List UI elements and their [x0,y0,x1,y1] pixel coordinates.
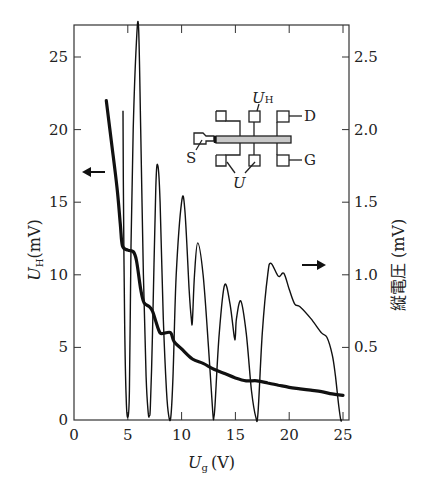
x-tick-label: 5 [123,426,133,444]
y-left-axis-ticks: 0510152025 [49,48,81,429]
svg-text:Ug(V): Ug(V) [188,453,235,473]
y-left-axis-title: UH(mV) [25,219,45,280]
longitudinal-voltage-line [123,21,342,421]
source-contact [194,133,214,144]
hall-bar-inset [194,104,302,173]
right-arrow-icon [302,260,326,270]
svg-text:G: G [304,151,316,169]
chart: 0510152025 0510152025 0.51.01.52.02.5 UH… [0,0,428,481]
svg-text:S: S [186,149,196,167]
y-left-tick-label: 10 [49,266,68,284]
y-left-tick-label: 25 [49,48,68,66]
y-right-tick-label: 1.0 [354,266,378,284]
y-left-tick-label: 20 [49,121,68,139]
y-right-tick-label: 2.5 [354,48,378,66]
hall-voltage-line [106,101,343,396]
y-right-axis-title: 縦電圧 (mV) [389,219,408,311]
plot-frame [74,25,349,420]
y-left-tick-label: 0 [58,411,68,429]
svg-text:U: U [233,174,247,192]
x-axis-title: Ug(V) [188,453,235,473]
y-left-tick-label: 15 [49,193,68,211]
left-arrow-icon [82,167,105,177]
svg-text:縦電圧 (mV): 縦電圧 (mV) [389,219,408,311]
svg-text:D: D [304,107,316,125]
y-right-tick-label: 2.0 [354,121,378,139]
x-tick-label: 10 [172,426,191,444]
svg-text:UH: UH [252,89,274,107]
y-right-tick-label: 1.5 [354,193,378,211]
x-tick-label: 15 [226,426,245,444]
y-right-axis-ticks: 0.51.01.52.02.5 [342,48,378,356]
svg-text:UH(mV): UH(mV) [25,219,45,280]
x-tick-label: 0 [69,426,79,444]
y-right-tick-label: 0.5 [354,338,378,356]
channel-bar [216,136,291,143]
x-tick-label: 20 [280,426,299,444]
x-tick-label: 25 [333,426,352,444]
y-left-tick-label: 5 [58,338,68,356]
